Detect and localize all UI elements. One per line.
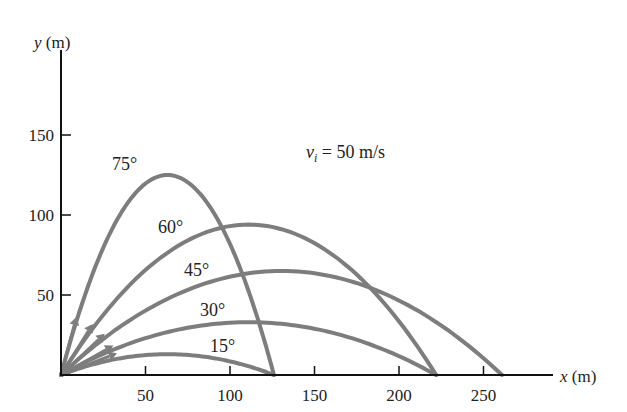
y-tick-label: 50 bbox=[37, 286, 54, 305]
x-axis-label: x (m) bbox=[559, 367, 596, 386]
y-tick-label: 100 bbox=[29, 206, 55, 225]
x-tick-label: 150 bbox=[302, 386, 328, 405]
y-axis-label: y (m) bbox=[32, 33, 70, 52]
trajectory-curves bbox=[61, 175, 502, 375]
angle-label: 30° bbox=[200, 300, 225, 320]
x-tick-label: 50 bbox=[137, 386, 154, 405]
x-tick-label: 200 bbox=[386, 386, 412, 405]
angle-label: 15° bbox=[210, 336, 235, 356]
x-tick-label: 100 bbox=[217, 386, 243, 405]
y-tick-label: 150 bbox=[29, 126, 55, 145]
x-tick-label: 250 bbox=[471, 386, 497, 405]
velocity-annotation: vi = 50 m/s bbox=[306, 142, 385, 165]
angle-label: 75° bbox=[112, 154, 137, 174]
projectile-trajectories-chart: 5010015020025050100150 y (m) x (m) vi = … bbox=[0, 0, 627, 412]
trajectory-60 bbox=[61, 225, 436, 375]
angle-label: 60° bbox=[158, 217, 183, 237]
angle-label: 45° bbox=[184, 260, 209, 280]
